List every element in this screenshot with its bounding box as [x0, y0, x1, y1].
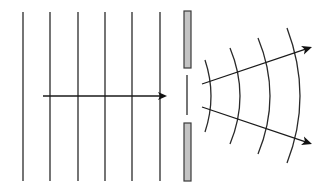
circular-wavefront-arc: [258, 38, 270, 154]
diffracted-rays: [202, 46, 312, 145]
barrier-with-slit: [184, 11, 191, 181]
single-slit-diffraction-diagram: [0, 0, 327, 188]
upper-barrier: [184, 11, 191, 68]
circular-wavefront-arc: [287, 28, 300, 163]
diffracted-ray-shaft: [202, 49, 306, 84]
circular-wavefront-arc: [205, 60, 211, 132]
diffracted-ray-shaft: [202, 107, 306, 142]
lower-barrier: [184, 123, 191, 181]
diffracted-circular-wavefronts: [205, 28, 300, 163]
circular-wavefront-arc: [230, 48, 240, 144]
